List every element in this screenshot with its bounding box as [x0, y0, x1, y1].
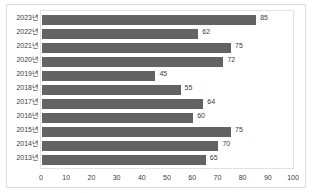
x-axis-tick-label: 50	[163, 173, 171, 183]
bar-fill	[42, 85, 181, 95]
bar-row: 45	[41, 69, 293, 83]
x-axis-tick-label: 60	[188, 173, 196, 183]
bar	[42, 71, 155, 81]
x-axis-tick-label: 0	[39, 173, 43, 183]
x-axis-tick-label: 20	[87, 173, 95, 183]
x-axis-tick-label: 30	[113, 173, 121, 183]
x-axis-tick-label: 10	[62, 173, 70, 183]
bar-value-label: 75	[235, 41, 243, 51]
bar-row: 72	[41, 55, 293, 69]
bar-row: 70	[41, 139, 293, 153]
bar	[42, 99, 203, 109]
bar	[42, 127, 231, 137]
bar-fill	[42, 113, 193, 123]
bar-row: 60	[41, 111, 293, 125]
bar-row: 55	[41, 83, 293, 97]
x-axis-tick-label: 40	[138, 173, 146, 183]
y-axis-label: 2018년	[8, 83, 38, 93]
bar-row: 85	[41, 13, 293, 27]
plot-area: 8562757245556460757065	[40, 10, 294, 169]
bar	[42, 113, 193, 123]
bar-fill	[42, 15, 256, 25]
bar	[42, 29, 198, 39]
bar-fill	[42, 43, 231, 53]
bar-fill	[42, 141, 218, 151]
bar-row: 65	[41, 153, 293, 167]
bar-fill	[42, 71, 155, 81]
bar-value-label: 85	[260, 13, 268, 23]
y-axis-label: 2022년	[8, 27, 38, 37]
y-axis-label: 2019년	[8, 69, 38, 79]
bar-value-label: 64	[207, 97, 215, 107]
x-axis-tick-labels: 0102030405060708090100	[40, 171, 294, 185]
bar-value-label: 60	[197, 111, 205, 121]
y-axis-label: 2017년	[8, 97, 38, 107]
bar	[42, 43, 231, 53]
bar	[42, 155, 206, 165]
y-axis-label: 2021년	[8, 41, 38, 51]
bar-fill	[42, 155, 206, 165]
bar	[42, 57, 223, 67]
bar-value-label: 70	[222, 139, 230, 149]
bar-row: 75	[41, 125, 293, 139]
y-axis-label: 2020년	[8, 55, 38, 65]
bar-value-label: 65	[210, 153, 218, 163]
bar-value-label: 72	[227, 55, 235, 65]
bar	[42, 85, 181, 95]
x-axis-tick-label: 90	[264, 173, 272, 183]
bar-fill	[42, 57, 223, 67]
x-axis-tick-label: 100	[287, 173, 299, 183]
bar-fill	[42, 127, 231, 137]
x-axis-tick-label: 70	[213, 173, 221, 183]
bar	[42, 15, 256, 25]
bar-row: 62	[41, 27, 293, 41]
bar	[42, 141, 218, 151]
bar-fill	[42, 29, 198, 39]
y-axis-label: 2023년	[8, 13, 38, 23]
y-axis-category-labels: 2023년2022년2021년2020년2019년2018년2017년2016년…	[7, 10, 38, 169]
y-axis-label: 2015년	[8, 125, 38, 135]
bar-fill	[42, 99, 203, 109]
bar-value-label: 45	[159, 69, 167, 79]
bar-value-label: 55	[185, 83, 193, 93]
x-axis-tick-label: 80	[239, 173, 247, 183]
bar-value-label: 62	[202, 27, 210, 37]
chart-frame: 2023년2022년2021년2020년2019년2018년2017년2016년…	[6, 4, 306, 188]
y-axis-label: 2014년	[8, 139, 38, 149]
bar-value-label: 75	[235, 125, 243, 135]
bar-row: 64	[41, 97, 293, 111]
y-axis-label: 2013년	[8, 153, 38, 163]
y-axis-label: 2016년	[8, 111, 38, 121]
bar-row: 75	[41, 41, 293, 55]
